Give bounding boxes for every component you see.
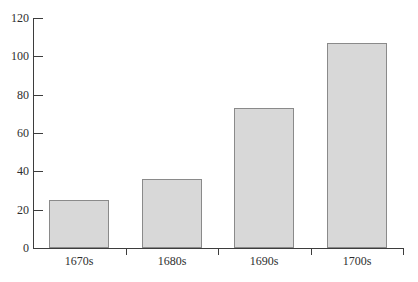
y-axis-tick — [34, 56, 43, 57]
x-category-label: 1680s — [137, 254, 207, 268]
y-axis-tick — [34, 95, 43, 96]
x-category-label: 1670s — [44, 254, 114, 268]
bar-chart: 0204060801001201670s1680s1690s1700s — [0, 0, 418, 282]
x-category-label: 1690s — [229, 254, 299, 268]
bar — [49, 200, 109, 248]
y-axis-tick — [34, 171, 43, 172]
bar — [142, 179, 202, 248]
y-tick-label: 120 — [1, 11, 29, 25]
y-tick-label: 80 — [1, 88, 29, 102]
x-axis-tick — [403, 249, 404, 255]
x-category-label: 1700s — [322, 254, 392, 268]
bar — [327, 43, 387, 248]
x-axis-tick — [311, 249, 312, 255]
y-tick-label: 40 — [1, 164, 29, 178]
y-tick-label: 20 — [1, 203, 29, 217]
x-axis-tick — [126, 249, 127, 255]
x-axis-tick — [218, 249, 219, 255]
y-axis-tick — [34, 133, 43, 134]
y-axis-tick — [34, 18, 43, 19]
bar — [234, 108, 294, 248]
y-tick-label: 100 — [1, 49, 29, 63]
y-tick-label: 60 — [1, 126, 29, 140]
y-tick-label: 0 — [1, 241, 29, 255]
y-axis-tick — [34, 210, 43, 211]
